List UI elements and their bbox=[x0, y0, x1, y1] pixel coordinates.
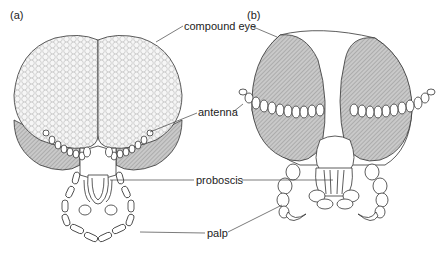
label-antenna: antenna bbox=[198, 106, 238, 118]
palp-right-b bbox=[358, 164, 388, 221]
label-compound-eye: compound eye bbox=[184, 20, 256, 32]
label-palp: palp bbox=[207, 227, 228, 239]
palp-left-b bbox=[277, 164, 306, 221]
label-proboscis: proboscis bbox=[196, 174, 243, 186]
proboscis-a bbox=[84, 175, 112, 204]
face-b bbox=[316, 136, 354, 170]
proboscis-b bbox=[309, 168, 359, 209]
panel-label-a: (a) bbox=[10, 9, 23, 21]
compound-eye-left-b bbox=[252, 35, 325, 161]
diagram-drawing bbox=[0, 0, 436, 254]
head-b bbox=[239, 31, 435, 221]
insect-head-diagram: (a) (b) compound eye antenna proboscis p… bbox=[0, 0, 436, 254]
head-a bbox=[14, 35, 182, 242]
